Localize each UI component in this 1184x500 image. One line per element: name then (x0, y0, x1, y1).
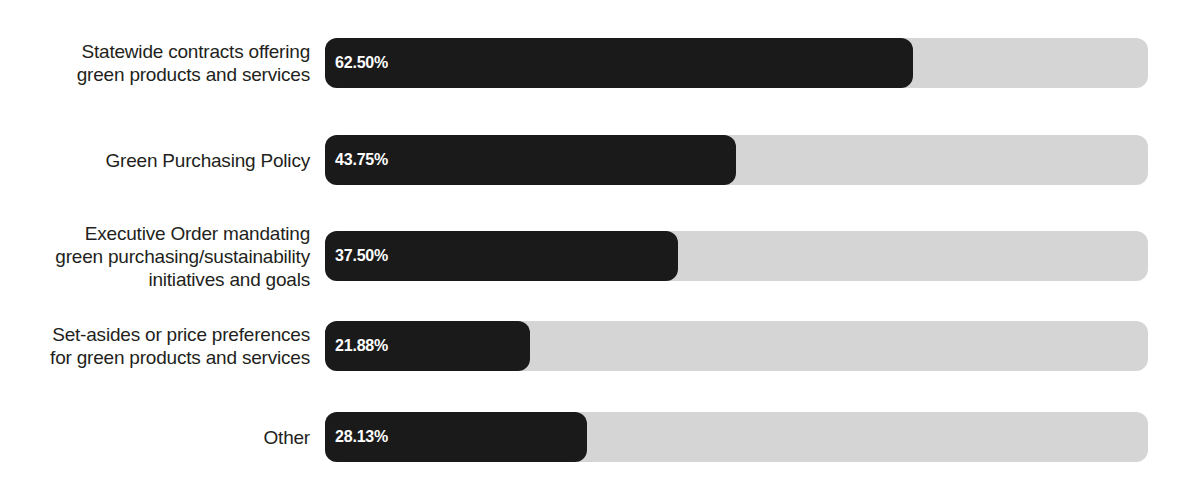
bar-category-label: Executive Order mandating green purchasi… (0, 222, 310, 291)
chart-row: Other28.13% (0, 412, 1184, 462)
bar-category-label: Other (0, 426, 310, 449)
bar-category-label: Set-asides or price preferences for gree… (0, 323, 310, 369)
bar-value-label: 62.50% (335, 54, 388, 72)
bar-value-label: 21.88% (335, 337, 388, 355)
bar-track: 21.88% (325, 321, 1148, 371)
chart-row: Statewide contracts offering green produ… (0, 38, 1184, 88)
bar-value-label: 37.50% (335, 247, 388, 265)
bar-track: 43.75% (325, 135, 1148, 185)
bar-track: 62.50% (325, 38, 1148, 88)
chart-row: Set-asides or price preferences for gree… (0, 321, 1184, 371)
bar-category-label: Green Purchasing Policy (0, 149, 310, 172)
chart-row: Green Purchasing Policy43.75% (0, 135, 1184, 185)
bar-fill: 43.75% (325, 135, 736, 185)
chart-row: Executive Order mandating green purchasi… (0, 231, 1184, 281)
bar-track: 37.50% (325, 231, 1148, 281)
bar-fill: 21.88% (325, 321, 530, 371)
horizontal-bar-chart: Statewide contracts offering green produ… (0, 0, 1184, 500)
bar-fill: 62.50% (325, 38, 913, 88)
bar-fill: 37.50% (325, 231, 678, 281)
bar-fill: 28.13% (325, 412, 587, 462)
bar-track: 28.13% (325, 412, 1148, 462)
bar-value-label: 28.13% (335, 428, 388, 446)
bar-category-label: Statewide contracts offering green produ… (0, 40, 310, 86)
bar-value-label: 43.75% (335, 151, 388, 169)
